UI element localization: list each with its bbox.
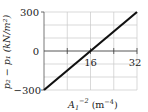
chart: 300 0 −300 16 32 A1−2 (m−4) p₂ − p₁ (kN/… [0, 0, 148, 112]
xtick-32: 32 [129, 57, 142, 68]
ytick-0: 0 [33, 46, 39, 57]
x-axis-label: A1−2 (m−4) [67, 97, 118, 112]
ytick-neg300: −300 [14, 85, 41, 96]
xtick-16: 16 [84, 57, 97, 68]
y-axis-label: p₂ − p₁ (kN/m²) [1, 15, 12, 90]
ytick-300: 300 [20, 7, 39, 18]
